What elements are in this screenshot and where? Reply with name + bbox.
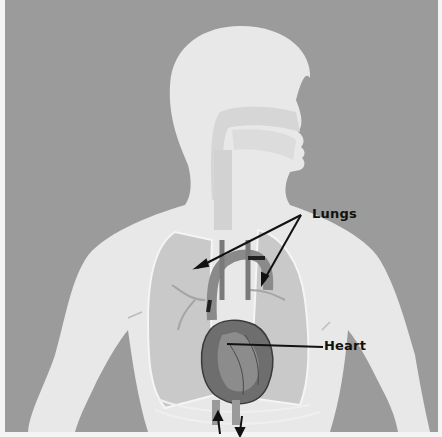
trachea bbox=[214, 150, 232, 230]
anatomy-diagram: Lungs Heart bbox=[0, 0, 442, 437]
lungs-label: Lungs bbox=[312, 206, 357, 221]
anatomy-illustration bbox=[0, 0, 442, 437]
heart-label: Heart bbox=[324, 338, 366, 353]
